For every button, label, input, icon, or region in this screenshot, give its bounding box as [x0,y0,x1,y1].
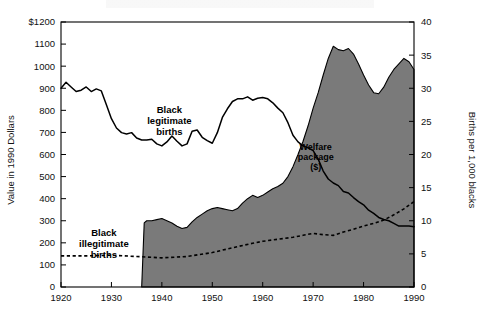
right-axis-title: Births per 1,000 blacks [467,112,478,209]
chart-canvas: 010020030040050060070080090010001100$120… [0,0,480,321]
right-tick-label: 5 [421,248,426,259]
right-tick-label: 25 [421,116,432,127]
left-tick-label: 100 [39,259,55,270]
left-tick-label: 400 [39,193,55,204]
x-tick-label: 1930 [101,292,122,303]
chart-figure: 010020030040050060070080090010001100$120… [0,0,480,321]
left-tick-label: 800 [39,105,55,116]
left-tick-label: 0 [50,281,55,292]
x-tick-label: 1950 [202,292,223,303]
left-tick-label: 900 [39,83,55,94]
black-legitimate-births-label-line: legitimate [147,115,191,126]
black-legitimate-births-label-line: births [156,126,182,137]
left-tick-label: 1100 [35,38,55,49]
right-tick-label: 10 [421,215,432,226]
welfare-package-label-line: package [298,152,334,162]
right-tick-label: 35 [421,50,432,61]
right-tick-label: 40 [421,16,432,27]
x-tick-label: 1990 [403,292,424,303]
black-legitimate-births-label-line: Black [157,104,183,115]
top-artifact-band [0,0,480,8]
left-tick-label: $1200 [29,16,55,27]
black-illegitimate-births-label-line: illegitimate [79,238,129,249]
left-tick-label: 1000 [34,61,55,72]
x-tick-label: 1940 [151,292,172,303]
left-tick-label: 500 [39,171,55,182]
black-illegitimate-births-label-line: Black [91,227,117,238]
left-axis-title: Value in 1990 Dollars [5,115,16,205]
left-tick-label: 700 [39,127,55,138]
right-tick-label: 30 [421,83,432,94]
x-tick-label: 1960 [252,292,273,303]
right-tick-label: 0 [421,281,426,292]
left-tick-label: 200 [39,237,55,248]
welfare-package-label-line: Welfare [299,142,331,152]
welfare-package-label-line: ($) [310,162,321,172]
x-tick-label: 1970 [303,292,324,303]
x-tick-label: 1920 [50,292,71,303]
x-tick-label: 1980 [353,292,374,303]
black-illegitimate-births-label-line: births [91,249,117,260]
right-tick-label: 20 [421,149,432,160]
left-tick-label: 300 [39,215,55,226]
right-tick-label: 15 [421,182,432,193]
left-tick-label: 600 [39,149,55,160]
